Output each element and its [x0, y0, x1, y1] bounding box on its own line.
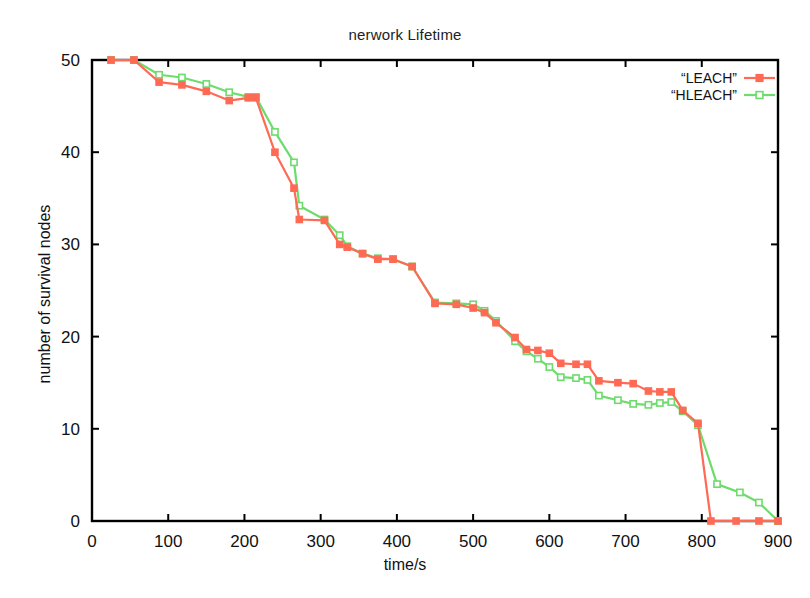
data-point-marker: [733, 518, 739, 524]
legend: “LEACH”“HLEACH”: [671, 70, 775, 103]
data-point-marker: [558, 374, 564, 380]
data-point-marker: [546, 350, 552, 356]
data-point-marker: [131, 57, 137, 63]
data-point-marker: [453, 301, 459, 307]
y-tick-label: 40: [61, 143, 80, 162]
data-point-marker: [493, 320, 499, 326]
x-tick-label: 200: [230, 532, 258, 551]
data-point-marker: [481, 310, 487, 316]
data-point-marker: [375, 256, 381, 262]
data-point-marker: [337, 232, 343, 238]
x-tick-label: 0: [87, 532, 96, 551]
data-point-marker: [523, 346, 529, 352]
data-point-marker: [584, 377, 590, 383]
data-point-marker: [645, 402, 651, 408]
data-point-marker: [179, 74, 185, 80]
data-point-marker: [156, 79, 162, 85]
data-point-marker: [253, 95, 259, 101]
data-point-marker: [432, 300, 438, 306]
plot-area: 010020030040050060070080090001020304050“…: [0, 0, 810, 598]
data-point-marker: [630, 401, 636, 407]
data-point-marker: [657, 389, 663, 395]
data-point-marker: [272, 149, 278, 155]
data-point-marker: [359, 251, 365, 257]
y-tick-label: 10: [61, 420, 80, 439]
data-point-marker: [756, 499, 762, 505]
data-point-marker: [535, 356, 541, 362]
data-point-marker: [226, 89, 232, 95]
x-tick-label: 100: [154, 532, 182, 551]
series-hleach: [108, 57, 781, 524]
x-tick-label: 300: [306, 532, 334, 551]
x-tick-label: 800: [688, 532, 716, 551]
y-tick-label: 50: [61, 51, 80, 70]
y-tick-label: 20: [61, 328, 80, 347]
data-point-marker: [291, 159, 297, 165]
legend-label: “HLEACH”: [671, 87, 737, 103]
series-line: [111, 60, 778, 521]
legend-marker: [756, 92, 763, 99]
data-point-marker: [245, 95, 251, 101]
y-tick-label: 0: [71, 512, 80, 531]
data-point-marker: [409, 263, 415, 269]
data-point-marker: [695, 420, 701, 426]
x-tick-label: 700: [611, 532, 639, 551]
data-point-marker: [775, 518, 781, 524]
data-point-marker: [390, 256, 396, 262]
x-tick-label: 400: [383, 532, 411, 551]
data-point-marker: [645, 388, 651, 394]
data-point-marker: [680, 407, 686, 413]
plot-frame: [92, 60, 778, 521]
data-point-marker: [657, 400, 663, 406]
data-point-marker: [156, 72, 162, 78]
data-point-marker: [737, 489, 743, 495]
data-point-marker: [573, 375, 579, 381]
data-point-marker: [179, 82, 185, 88]
data-point-marker: [203, 81, 209, 87]
legend-label: “LEACH”: [681, 70, 737, 86]
chart-container: nerwork Lifetime number of survival node…: [0, 0, 810, 598]
data-point-marker: [596, 378, 602, 384]
data-point-marker: [226, 97, 232, 103]
data-point-marker: [615, 380, 621, 386]
data-point-marker: [668, 389, 674, 395]
data-point-marker: [714, 481, 720, 487]
x-tick-label: 600: [535, 532, 563, 551]
data-point-marker: [596, 393, 602, 399]
data-point-marker: [558, 360, 564, 366]
data-point-marker: [584, 361, 590, 367]
data-point-marker: [512, 334, 518, 340]
series-leach: [108, 57, 781, 524]
data-point-marker: [615, 397, 621, 403]
data-point-marker: [756, 518, 762, 524]
data-point-marker: [203, 88, 209, 94]
y-tick-label: 30: [61, 235, 80, 254]
data-point-marker: [546, 364, 552, 370]
data-point-marker: [573, 361, 579, 367]
data-point-marker: [630, 381, 636, 387]
legend-marker: [756, 75, 763, 82]
x-tick-label: 900: [764, 532, 792, 551]
data-point-marker: [337, 241, 343, 247]
data-point-marker: [321, 217, 327, 223]
x-tick-label: 500: [459, 532, 487, 551]
data-point-marker: [344, 244, 350, 250]
data-point-marker: [470, 305, 476, 311]
data-point-marker: [291, 185, 297, 191]
series-line: [111, 60, 778, 521]
data-point-marker: [272, 129, 278, 135]
data-point-marker: [296, 216, 302, 222]
data-point-marker: [708, 518, 714, 524]
data-point-marker: [668, 399, 674, 405]
data-point-marker: [108, 57, 114, 63]
data-point-marker: [535, 347, 541, 353]
